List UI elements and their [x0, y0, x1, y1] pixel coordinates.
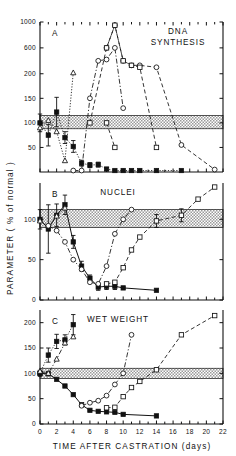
- data-point-filled-square: [113, 410, 117, 414]
- panel-group: 501001502006001000ADNASYNTHESIS050100BNU…: [20, 18, 227, 435]
- x-tick-label: 0: [38, 428, 42, 435]
- data-point-open-circle: [121, 371, 126, 376]
- data-point-open-circle: [154, 65, 159, 70]
- data-point-open-circle: [104, 264, 109, 269]
- panel-title-a: DNA: [168, 27, 188, 36]
- x-tick-label: 16: [169, 428, 177, 435]
- data-point-open-circle: [121, 106, 126, 111]
- data-point-open-square: [104, 282, 108, 286]
- data-point-open-circle: [179, 143, 184, 148]
- data-point-filled-square: [71, 240, 75, 244]
- y-tick-label: 150: [24, 95, 36, 102]
- data-point-filled-square: [113, 168, 117, 172]
- data-point-filled-square: [129, 168, 133, 172]
- data-point-open-square: [88, 121, 92, 125]
- data-point-open-circle: [79, 168, 84, 173]
- data-point-open-circle: [71, 257, 76, 262]
- data-point-filled-square: [63, 135, 67, 139]
- data-point-open-square: [196, 197, 200, 201]
- data-point-filled-square: [154, 414, 158, 418]
- data-point-filled-square: [79, 161, 83, 165]
- y-tick-label: 0: [32, 420, 36, 427]
- y-tick-label: 200: [24, 70, 36, 77]
- panel-label-c: C: [52, 317, 58, 326]
- data-point-filled-square: [138, 168, 142, 172]
- data-point-filled-square: [121, 168, 125, 172]
- data-point-open-circle: [212, 167, 217, 172]
- normal-range-band: [40, 116, 223, 129]
- data-point-filled-square: [154, 288, 158, 292]
- data-point-open-triangle: [54, 356, 59, 361]
- data-point-open-circle: [54, 228, 59, 233]
- data-point-open-circle: [112, 382, 117, 387]
- data-point-open-square: [138, 379, 142, 383]
- panel-label-a: A: [52, 29, 58, 38]
- data-point-filled-square: [96, 162, 100, 166]
- data-point-open-circle: [63, 240, 68, 245]
- series-line: [107, 316, 215, 408]
- series-line: [73, 48, 123, 171]
- data-point-open-square: [179, 333, 183, 337]
- panel-b: 050100BNUCLEI: [24, 183, 223, 303]
- data-point-open-triangle: [62, 158, 67, 163]
- data-point-filled-square: [88, 163, 92, 167]
- data-point-open-square: [113, 145, 117, 149]
- panel-label-b: B: [52, 190, 58, 199]
- data-point-filled-square: [54, 110, 58, 114]
- x-tick-label: 2: [55, 428, 59, 435]
- panel-a: 501001502006001000ADNASYNTHESIS: [20, 18, 223, 173]
- data-point-filled-square: [96, 409, 100, 413]
- data-point-open-square: [212, 313, 216, 317]
- y-tick-label: 0: [32, 296, 36, 303]
- data-point-open-circle: [112, 231, 117, 236]
- data-point-open-circle: [104, 393, 109, 398]
- y-tick-label: 50: [28, 256, 36, 263]
- data-point-open-circle: [104, 57, 109, 62]
- data-point-open-circle: [121, 217, 126, 222]
- y-tick-label: 50: [28, 144, 36, 151]
- data-point-open-circle: [79, 403, 84, 408]
- y-tick-label: 1000: [20, 18, 36, 25]
- data-point-open-square: [129, 385, 133, 389]
- data-point-filled-square: [63, 384, 67, 388]
- panel-c: 050100150200CWET WEIGHT: [24, 310, 223, 427]
- x-tick-label: 22: [219, 428, 227, 435]
- series-filled-square-early: [38, 97, 184, 172]
- chart-svg: 501001502006001000ADNASYNTHESIS050100BNU…: [0, 0, 236, 456]
- data-point-open-square: [121, 266, 125, 270]
- data-point-open-square: [129, 248, 133, 252]
- panel-axes: [40, 310, 223, 424]
- data-point-filled-square: [179, 168, 183, 172]
- data-point-open-square: [113, 280, 117, 284]
- data-point-open-circle: [46, 223, 51, 228]
- x-tick-label: 8: [105, 428, 109, 435]
- y-tick-label: 100: [24, 119, 36, 126]
- data-point-filled-square: [71, 392, 75, 396]
- data-point-open-circle: [96, 58, 101, 63]
- panel-title-b: NUCLEI: [100, 188, 135, 197]
- data-point-filled-square: [154, 168, 158, 172]
- series-open-square: [104, 313, 217, 410]
- data-point-open-square: [129, 63, 133, 67]
- y-tick-label: 150: [24, 344, 36, 351]
- data-point-filled-square: [104, 167, 108, 171]
- x-tick-label: 10: [119, 428, 127, 435]
- data-point-open-circle: [88, 280, 93, 285]
- data-point-open-square: [104, 46, 108, 50]
- data-point-open-triangle: [54, 129, 59, 134]
- data-point-open-square: [113, 23, 117, 27]
- data-point-filled-square: [121, 412, 125, 416]
- series-open-square: [104, 185, 217, 286]
- data-point-open-circle: [96, 398, 101, 403]
- data-point-open-circle: [71, 168, 76, 173]
- series-line: [40, 325, 73, 374]
- data-point-filled-square: [71, 322, 75, 326]
- y-tick-label: 100: [24, 216, 36, 223]
- data-point-open-triangle: [71, 70, 76, 75]
- y-tick-label: 50: [28, 395, 36, 402]
- data-point-filled-square: [121, 286, 125, 290]
- data-point-open-circle: [96, 281, 101, 286]
- data-point-open-square: [154, 145, 158, 149]
- data-point-filled-square: [46, 353, 50, 357]
- data-point-open-square: [104, 406, 108, 410]
